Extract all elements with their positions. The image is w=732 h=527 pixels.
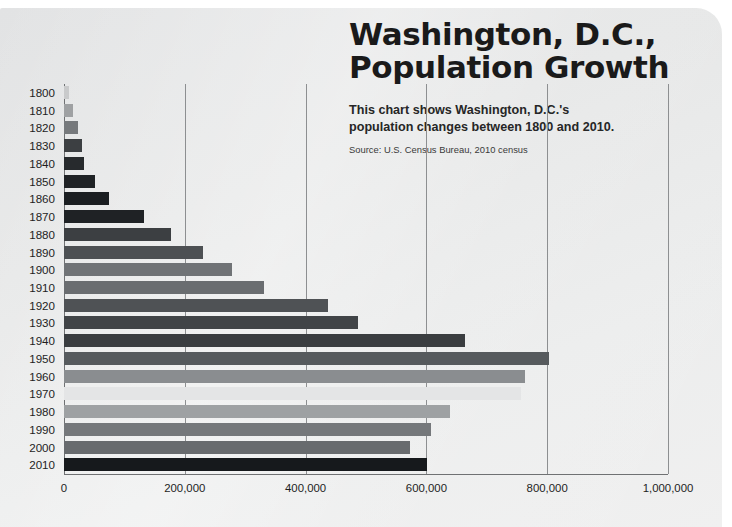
y-axis-label-1860: 1860 xyxy=(29,190,55,207)
x-tick-1000000: 1,000,000 xyxy=(643,482,694,494)
chart-row: 1990 xyxy=(64,421,668,439)
y-axis-label-1920: 1920 xyxy=(29,297,55,314)
page-title: Washington, D.C., Population Growth xyxy=(349,18,679,84)
bar-2010[interactable] xyxy=(64,458,427,471)
bar-1920[interactable] xyxy=(64,299,328,312)
bar-1880[interactable] xyxy=(64,228,171,241)
chart-row: 1930 xyxy=(64,314,668,332)
chart-row: 1880 xyxy=(64,226,668,244)
bar-1890[interactable] xyxy=(64,246,203,259)
y-axis-label-1910: 1910 xyxy=(29,279,55,296)
chart-row: 1870 xyxy=(64,208,668,226)
page-title-line-1: Washington, D.C., xyxy=(349,16,656,52)
y-axis-label-1810: 1810 xyxy=(29,102,55,119)
chart-row: 1810 xyxy=(64,102,668,120)
bar-1860[interactable] xyxy=(64,192,109,205)
chart-row: 1970 xyxy=(64,385,668,403)
x-tick-600000: 600,000 xyxy=(406,482,447,494)
y-axis-label-1850: 1850 xyxy=(29,173,55,190)
bar-1870[interactable] xyxy=(64,210,144,223)
chart-plot-area: 1800181018201830184018501860187018801890… xyxy=(64,84,668,474)
chart-row: 2010 xyxy=(64,456,668,474)
chart-row: 1830 xyxy=(64,137,668,155)
x-tick-200000: 200,000 xyxy=(164,482,205,494)
bar-1960[interactable] xyxy=(64,370,525,383)
y-axis-label-1870: 1870 xyxy=(29,208,55,225)
bar-1810[interactable] xyxy=(64,104,73,117)
y-axis-label-1980: 1980 xyxy=(29,403,55,420)
x-axis-line xyxy=(64,474,668,475)
bar-1910[interactable] xyxy=(64,281,264,294)
bar-1990[interactable] xyxy=(64,423,431,436)
chart-row: 1910 xyxy=(64,279,668,297)
bar-1980[interactable] xyxy=(64,405,450,418)
bar-1830[interactable] xyxy=(64,139,82,152)
y-axis-label-1970: 1970 xyxy=(29,385,55,402)
chart-row: 2000 xyxy=(64,439,668,457)
chart-row: 1890 xyxy=(64,244,668,262)
chart-row: 1840 xyxy=(64,155,668,173)
bar-1820[interactable] xyxy=(64,121,78,134)
bar-1850[interactable] xyxy=(64,175,95,188)
y-axis-label-1930: 1930 xyxy=(29,314,55,331)
chart-row: 1960 xyxy=(64,368,668,386)
y-axis-label-1900: 1900 xyxy=(29,261,55,278)
bar-1970[interactable] xyxy=(64,387,521,400)
chart-row: 1860 xyxy=(64,190,668,208)
x-tick-800000: 800,000 xyxy=(527,482,568,494)
y-axis-label-1990: 1990 xyxy=(29,421,55,438)
bar-1930[interactable] xyxy=(64,316,358,329)
y-axis-label-1950: 1950 xyxy=(29,350,55,367)
chart-row: 1920 xyxy=(64,297,668,315)
y-axis-label-1840: 1840 xyxy=(29,155,55,172)
chart-row: 1950 xyxy=(64,350,668,368)
bar-1840[interactable] xyxy=(64,157,84,170)
chart-row: 1820 xyxy=(64,119,668,137)
x-tick-400000: 400,000 xyxy=(285,482,326,494)
page-title-line-2: Population Growth xyxy=(349,49,669,85)
x-tick-0: 0 xyxy=(61,482,67,494)
chart-row: 1940 xyxy=(64,332,668,350)
y-axis-label-2010: 2010 xyxy=(29,456,55,473)
y-axis-label-1940: 1940 xyxy=(29,332,55,349)
chart-row: 1800 xyxy=(64,84,668,102)
y-axis-label-1890: 1890 xyxy=(29,244,55,261)
y-axis-label-1800: 1800 xyxy=(29,84,55,101)
y-axis-label-1960: 1960 xyxy=(29,368,55,385)
chart-row: 1980 xyxy=(64,403,668,421)
y-axis-label-1880: 1880 xyxy=(29,226,55,243)
gridline-1000000 xyxy=(668,84,669,474)
y-axis-label-2000: 2000 xyxy=(29,439,55,456)
bar-1940[interactable] xyxy=(64,334,465,347)
bar-1800[interactable] xyxy=(64,86,69,99)
chart-row: 1900 xyxy=(64,261,668,279)
chart-row: 1850 xyxy=(64,173,668,191)
y-axis-label-1820: 1820 xyxy=(29,119,55,136)
chart-page: Washington, D.C., Population Growth This… xyxy=(0,0,732,527)
bar-1950[interactable] xyxy=(64,352,549,365)
bar-2000[interactable] xyxy=(64,441,410,454)
bar-1900[interactable] xyxy=(64,263,232,276)
y-axis-label-1830: 1830 xyxy=(29,137,55,154)
